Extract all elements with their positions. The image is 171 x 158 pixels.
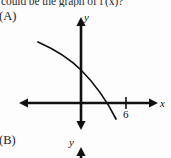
choice-b-y-axis-label: y (68, 136, 74, 148)
choice-b-y-axis-up-arrow-icon (76, 147, 85, 156)
choice-b-graph-preview: y (0, 0, 171, 158)
question-choice-panel: could be the graph of f'(x)? (A) (B) y x… (0, 0, 171, 158)
